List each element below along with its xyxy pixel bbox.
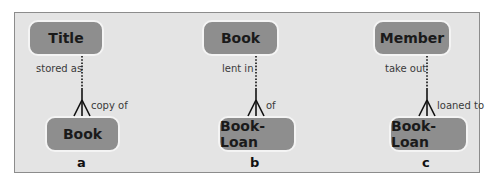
connector-b xyxy=(248,56,264,116)
connector-c xyxy=(419,56,435,116)
connectors xyxy=(0,0,494,184)
connector-a xyxy=(74,56,90,116)
